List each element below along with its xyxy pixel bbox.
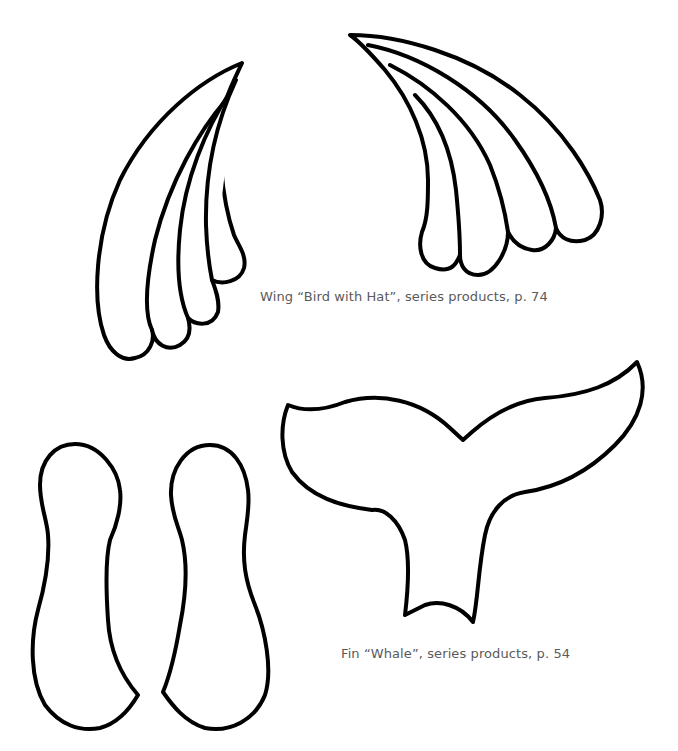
right-foot-outline bbox=[163, 445, 268, 729]
template-artwork bbox=[0, 0, 678, 751]
right-wing-outline bbox=[350, 35, 602, 275]
left-wing-outline bbox=[97, 63, 244, 359]
wing-caption: Wing “Bird with Hat”, series products, p… bbox=[260, 289, 548, 304]
whale-fin-outline bbox=[282, 362, 642, 622]
fin-caption: Fin “Whale”, series products, p. 54 bbox=[341, 646, 570, 661]
left-foot-outline bbox=[33, 444, 138, 729]
